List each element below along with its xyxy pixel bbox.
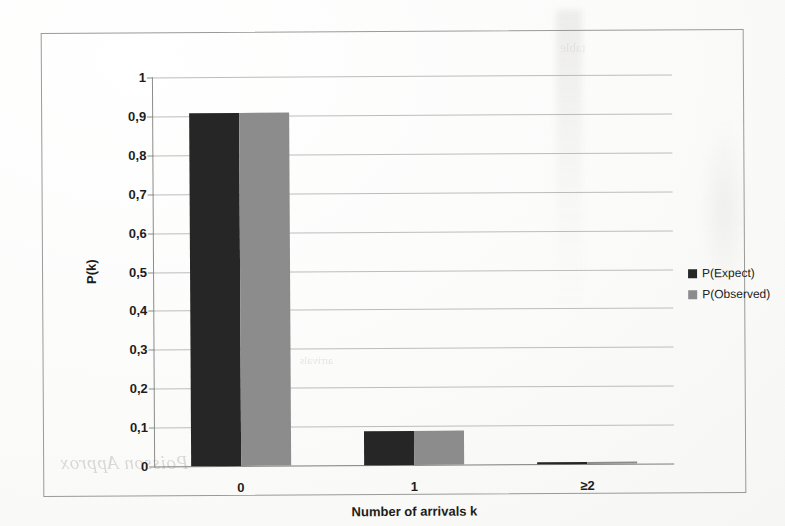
legend-item: P(Expect)	[688, 266, 784, 281]
y-axis-tick	[149, 466, 155, 467]
y-axis-tick-label: 0	[141, 459, 148, 474]
y-axis-tick	[148, 272, 154, 273]
legend-label: P(Expect)	[702, 266, 755, 280]
y-axis-tick-label: 0,5	[129, 264, 147, 279]
y-axis-tick	[147, 155, 153, 156]
bar	[537, 462, 587, 464]
y-axis-tick-label: 1	[139, 70, 146, 85]
gridline	[152, 74, 672, 78]
y-axis-tick	[148, 194, 154, 195]
plot-area	[152, 74, 674, 466]
x-axis-category-label: 0	[237, 480, 244, 495]
bar	[364, 431, 414, 465]
bar	[587, 462, 637, 464]
y-axis-tick-label: 0,8	[128, 148, 146, 163]
x-axis-category-labels: 01≥2	[42, 30, 743, 34]
chart-legend: P(Expect)P(Observed)	[688, 266, 784, 309]
legend-swatch-icon	[688, 269, 697, 278]
y-axis-tick	[149, 427, 155, 428]
bar	[414, 431, 464, 465]
y-axis-tick	[148, 350, 154, 351]
y-axis-tick	[148, 233, 154, 234]
y-axis-tick-label: 0,1	[130, 420, 148, 435]
y-axis-tick-label: 0,2	[130, 381, 148, 396]
y-axis-tick-label: 0,3	[129, 342, 147, 357]
x-axis-category-label: 1	[411, 479, 418, 494]
bar	[239, 112, 291, 465]
bar	[189, 113, 241, 466]
y-axis-tick-label: 0,9	[128, 109, 146, 124]
y-axis-tick	[147, 77, 153, 78]
legend-label: P(Observed)	[702, 287, 770, 301]
y-axis-tick-labels: 00,10,20,30,40,50,60,70,80,91	[102, 77, 148, 466]
y-axis-tick-label: 0,6	[129, 226, 147, 241]
legend-swatch-icon	[688, 290, 697, 299]
y-axis-tick-label: 0,4	[129, 303, 147, 318]
x-axis-category-label: ≥2	[580, 478, 594, 493]
y-axis-tick	[148, 311, 154, 312]
x-axis-title: Number of arrivals k	[154, 502, 674, 520]
scanned-page-background: Poisson Approx arrivals table 00,10,20,3…	[0, 0, 785, 526]
legend-item: P(Observed)	[688, 287, 784, 302]
y-axis-title: P(k)	[84, 259, 99, 284]
chart-plot-frame: 00,10,20,30,40,50,60,70,80,91 P(k) 01≥2 …	[41, 29, 747, 497]
y-axis-tick	[149, 389, 155, 390]
y-axis-tick	[147, 116, 153, 117]
y-axis-tick-label: 0,7	[128, 187, 146, 202]
